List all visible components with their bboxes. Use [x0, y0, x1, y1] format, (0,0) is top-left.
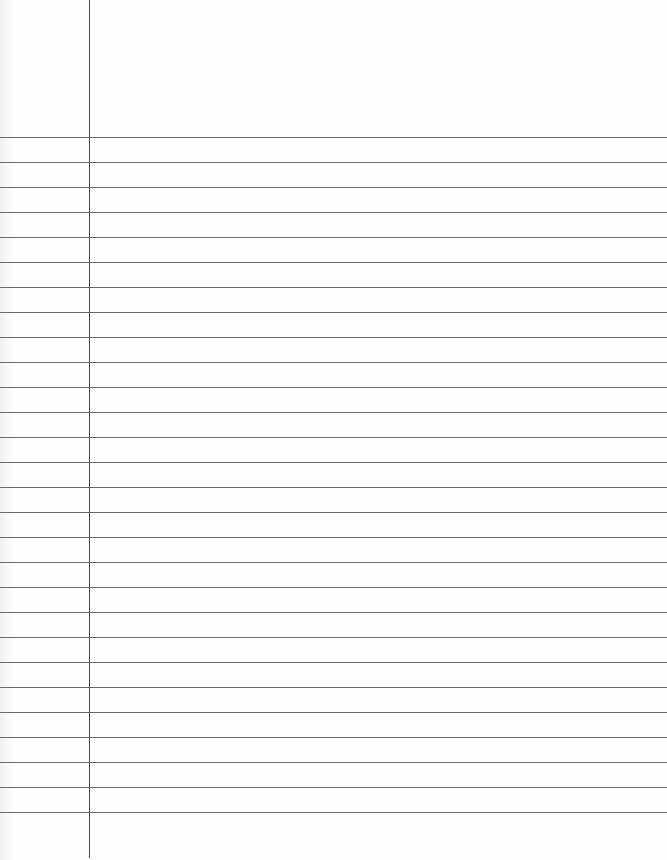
- ruled-line: [0, 187, 667, 188]
- ruled-line: [0, 362, 667, 363]
- ruled-line: [0, 287, 667, 288]
- ruled-line: [0, 537, 667, 538]
- ruled-line: [0, 662, 667, 663]
- ruled-line: [0, 437, 667, 438]
- ruled-line: [0, 712, 667, 713]
- ruled-line: [0, 312, 667, 313]
- ruled-line: [0, 262, 667, 263]
- ruled-line: [0, 612, 667, 613]
- ruled-line: [0, 462, 667, 463]
- ruled-line: [0, 762, 667, 763]
- ruled-line: [0, 787, 667, 788]
- ruled-line: [0, 637, 667, 638]
- ruled-line: [0, 512, 667, 513]
- ruled-line: [0, 812, 667, 813]
- lined-paper: [0, 0, 667, 860]
- ruled-line: [0, 337, 667, 338]
- ruled-line: [0, 562, 667, 563]
- paper-edge-shadow: [0, 0, 14, 860]
- ruled-line: [0, 387, 667, 388]
- ruled-line: [0, 137, 667, 138]
- ruled-line: [0, 687, 667, 688]
- margin-line: [89, 0, 90, 858]
- ruled-line: [0, 162, 667, 163]
- ruled-line: [0, 212, 667, 213]
- ruled-line: [0, 237, 667, 238]
- ruled-line: [0, 412, 667, 413]
- ruled-line: [0, 487, 667, 488]
- ruled-line: [0, 587, 667, 588]
- ruled-line: [0, 737, 667, 738]
